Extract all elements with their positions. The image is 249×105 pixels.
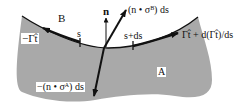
traction-a-label: −(n • σᴬ) ds xyxy=(36,82,85,92)
region-a-label: A xyxy=(157,67,166,77)
traction-b-label: (n • σᴮ) ds xyxy=(128,5,169,15)
normal-label: n xyxy=(103,6,109,17)
point-s-plus-ds-label: s+ds xyxy=(124,31,142,41)
tension-left-label: −Γt̂ xyxy=(21,33,39,44)
point-s-label: s xyxy=(77,29,81,39)
tension-right-label: Γt̂ + d(Γt̂)/ds xyxy=(182,30,233,40)
region-b-label: B xyxy=(58,13,65,24)
